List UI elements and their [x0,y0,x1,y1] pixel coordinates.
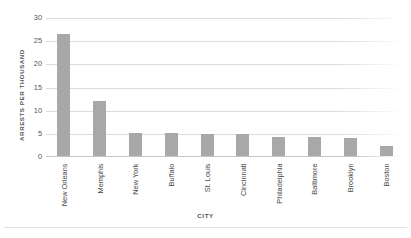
y-tick-label: 30 [24,14,42,22]
x-tick-label: Baltimore [310,164,319,216]
bar-series [46,18,404,157]
x-tick-label: Philadelphia [274,164,283,216]
x-tick-label: Buffalo [167,164,176,216]
bar[interactable] [129,133,142,157]
bar[interactable] [272,137,285,157]
bar[interactable] [308,137,321,157]
x-tick-label: St. Louis [203,164,212,216]
y-tick-label: 15 [24,84,42,92]
y-tick-label: 0 [24,153,42,161]
bottom-divider [4,227,407,228]
y-tick-label: 20 [24,60,42,68]
x-tick-slot: Memphis [82,159,118,211]
bar-slot [118,18,154,157]
x-tick-slot: Boston [368,159,404,211]
x-tick-label: Brooklyn [346,164,355,216]
y-tick-label: 25 [24,37,42,45]
bar[interactable] [201,134,214,157]
y-axis-tick-labels: 051015202530 [24,12,42,162]
y-tick-label: 10 [24,107,42,115]
x-tick-slot: St. Louis [189,159,225,211]
x-tick-label: New Orleans [59,164,68,216]
x-tick-slot: Brooklyn [332,159,368,211]
bar-slot [368,18,404,157]
bar-slot [332,18,368,157]
x-tick-label: Cincinnati [238,164,247,216]
bar-chart-figure: ARRESTS PER THOUSAND 051015202530 New Or… [0,0,411,238]
plot-area [46,18,404,157]
x-tick-label: Memphis [95,164,104,216]
bar[interactable] [57,34,70,157]
bar[interactable] [344,138,357,157]
bar-slot [225,18,261,157]
bar[interactable] [93,101,106,157]
x-axis-title: CITY [0,212,411,219]
bar-slot [261,18,297,157]
x-tick-slot: Buffalo [153,159,189,211]
x-axis-baseline [46,156,404,157]
x-axis-tick-labels: New OrleansMemphisNew YorkBuffaloSt. Lou… [46,159,404,211]
bar-slot [46,18,82,157]
y-tick-label: 5 [24,130,42,138]
x-tick-slot: Baltimore [297,159,333,211]
x-tick-slot: Cincinnati [225,159,261,211]
bar-slot [297,18,333,157]
x-tick-label: New York [131,164,140,216]
bar-slot [153,18,189,157]
bar-slot [82,18,118,157]
bar-slot [189,18,225,157]
x-tick-slot: New York [118,159,154,211]
x-tick-slot: New Orleans [46,159,82,211]
bar[interactable] [236,134,249,157]
x-tick-slot: Philadelphia [261,159,297,211]
x-tick-label: Boston [382,164,391,216]
bar[interactable] [165,133,178,157]
